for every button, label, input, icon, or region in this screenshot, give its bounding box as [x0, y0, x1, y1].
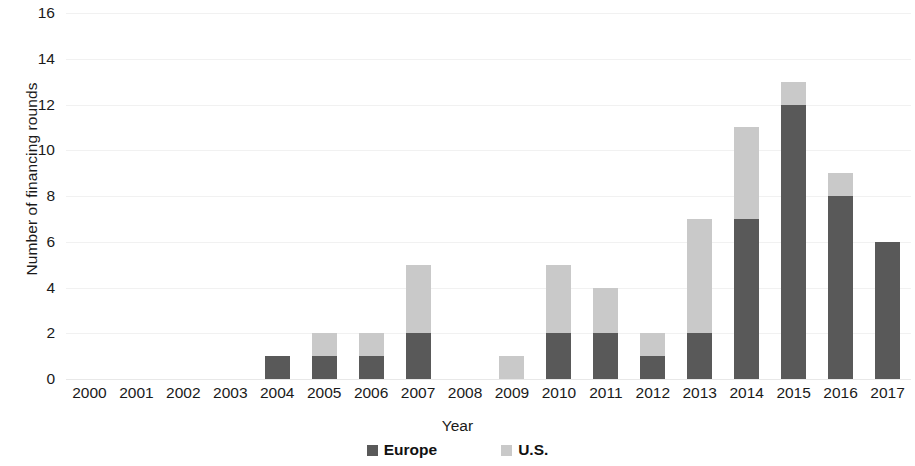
bar-segment-us[interactable] [312, 333, 337, 356]
bar-stack [359, 333, 384, 379]
y-axis-tick-label: 2 [5, 326, 55, 342]
bar-segment-us[interactable] [499, 356, 524, 379]
bar-group[interactable] [77, 13, 102, 379]
x-axis-tick-label: 2012 [629, 384, 676, 401]
bar-group[interactable] [265, 13, 290, 379]
bar-segment-us[interactable] [781, 82, 806, 105]
x-axis-tick-label: 2002 [160, 384, 207, 401]
bar-group[interactable] [828, 13, 853, 379]
bar-group[interactable] [687, 13, 712, 379]
bar-segment-europe[interactable] [734, 219, 759, 379]
x-axis-tick-label: 2009 [489, 384, 536, 401]
bar-segment-europe[interactable] [406, 333, 431, 379]
bar-stack [734, 127, 759, 379]
bar-segment-europe[interactable] [781, 105, 806, 380]
bar-group[interactable] [312, 13, 337, 379]
bar-group[interactable] [171, 13, 196, 379]
legend-label: U.S. [518, 441, 548, 459]
y-axis-tick-label: 6 [5, 234, 55, 250]
x-axis-tick-label: 2005 [301, 384, 348, 401]
x-axis-tick-label: 2010 [535, 384, 582, 401]
chart-legend: EuropeU.S. [0, 441, 915, 459]
bar-segment-europe[interactable] [312, 356, 337, 379]
x-axis-tick-labels: 2000200120022003200420052006200720082009… [66, 384, 911, 410]
legend-item[interactable]: Europe [367, 441, 437, 459]
bar-stack [546, 265, 571, 379]
bar-segment-europe[interactable] [687, 333, 712, 379]
bar-segment-us[interactable] [734, 127, 759, 219]
x-axis-tick-label: 2001 [113, 384, 160, 401]
bar-series-container [66, 13, 911, 379]
bar-segment-us[interactable] [359, 333, 384, 356]
bar-group[interactable] [875, 13, 900, 379]
bar-group[interactable] [124, 13, 149, 379]
legend-item[interactable]: U.S. [501, 441, 548, 459]
bar-stack [875, 242, 900, 379]
bar-group[interactable] [218, 13, 243, 379]
bar-segment-europe[interactable] [359, 356, 384, 379]
x-axis-tick-label: 2011 [582, 384, 629, 401]
bar-group[interactable] [734, 13, 759, 379]
bar-segment-europe[interactable] [640, 356, 665, 379]
bar-stack [828, 173, 853, 379]
y-axis-tick-label: 4 [5, 280, 55, 296]
bar-segment-us[interactable] [406, 265, 431, 334]
bar-segment-us[interactable] [593, 288, 618, 334]
x-axis-tick-label: 2013 [676, 384, 723, 401]
y-axis-tick-label: 10 [5, 143, 55, 159]
y-axis-tick-label: 16 [5, 5, 55, 21]
bar-group[interactable] [640, 13, 665, 379]
x-axis-tick-label: 2000 [66, 384, 113, 401]
bar-segment-europe[interactable] [828, 196, 853, 379]
x-axis-tick-label: 2008 [442, 384, 489, 401]
bar-group[interactable] [781, 13, 806, 379]
bar-stack [312, 333, 337, 379]
bar-group[interactable] [499, 13, 524, 379]
bar-segment-europe[interactable] [593, 333, 618, 379]
bar-group[interactable] [359, 13, 384, 379]
x-axis-tick-label: 2006 [348, 384, 395, 401]
y-axis-tick-label: 12 [5, 97, 55, 113]
bar-group[interactable] [546, 13, 571, 379]
x-axis-tick-label: 2016 [817, 384, 864, 401]
financing-rounds-chart: Number of financing rounds 1614121086420… [0, 0, 915, 466]
legend-swatch-icon [367, 445, 378, 456]
x-axis-tick-label: 2003 [207, 384, 254, 401]
bar-stack [687, 219, 712, 379]
bar-segment-europe[interactable] [875, 242, 900, 379]
x-axis-title: Year [0, 417, 915, 435]
bar-segment-us[interactable] [828, 173, 853, 196]
bar-group[interactable] [593, 13, 618, 379]
y-axis-tick-label: 0 [5, 371, 55, 387]
bar-group[interactable] [453, 13, 478, 379]
bar-stack [640, 333, 665, 379]
legend-swatch-icon [501, 445, 512, 456]
bar-segment-europe[interactable] [546, 333, 571, 379]
bar-stack [406, 265, 431, 379]
x-axis-tick-label: 2014 [723, 384, 770, 401]
x-axis-tick-label: 2007 [395, 384, 442, 401]
x-axis-tick-label: 2004 [254, 384, 301, 401]
legend-label: Europe [384, 441, 437, 459]
bar-stack [499, 356, 524, 379]
y-axis-tick-label: 14 [5, 51, 55, 67]
bar-segment-us[interactable] [640, 333, 665, 356]
x-axis-tick-label: 2015 [770, 384, 817, 401]
gridline [66, 379, 911, 380]
bar-segment-europe[interactable] [265, 356, 290, 379]
bar-stack [781, 82, 806, 379]
plot-area [66, 13, 911, 379]
x-axis-tick-label: 2017 [864, 384, 911, 401]
y-axis-tick-labels: 1614121086420 [0, 0, 66, 392]
y-axis-tick-label: 8 [5, 188, 55, 204]
bar-group[interactable] [406, 13, 431, 379]
bar-stack [593, 288, 618, 380]
bar-segment-us[interactable] [546, 265, 571, 334]
bar-stack [265, 356, 290, 379]
bar-segment-us[interactable] [687, 219, 712, 333]
